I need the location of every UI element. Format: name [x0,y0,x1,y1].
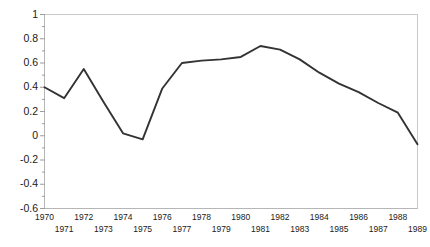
x-tick-label: 1970 [30,212,60,222]
x-tick-label: 1979 [206,224,236,234]
line-chart: 10.80.60.40.20-0.2-0.4-0.6 1970197119721… [0,0,430,247]
x-tick-label: 1973 [88,224,118,234]
x-tick-label: 1974 [108,212,138,222]
x-tick-label: 1980 [226,212,256,222]
x-tick-label: 1986 [344,212,374,222]
x-tick-label: 1976 [147,212,177,222]
x-tick-label: 1983 [285,224,315,234]
x-tick-label: 1987 [363,224,393,234]
x-tick-label: 1981 [245,224,275,234]
x-tick-label: 1982 [265,212,295,222]
x-tick-label: 1985 [324,224,354,234]
x-tick-label: 1989 [403,224,430,234]
x-tick-label: 1971 [49,224,79,234]
x-tick-label: 1984 [304,212,334,222]
x-axis-tick-labels: 1970197119721973197419751976197719781979… [0,0,430,247]
x-tick-label: 1978 [187,212,217,222]
x-tick-label: 1977 [167,224,197,234]
x-tick-label: 1988 [383,212,413,222]
x-tick-label: 1972 [69,212,99,222]
x-tick-label: 1975 [128,224,158,234]
